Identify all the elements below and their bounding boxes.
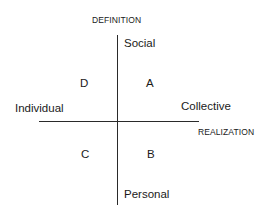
horizontal-axis-line [39, 121, 199, 122]
quadrant-bottom-left-label: C [81, 149, 89, 161]
vertical-axis-line [117, 35, 118, 205]
right-pole-label: Collective [181, 101, 231, 113]
left-pole-label: Individual [15, 103, 64, 115]
bottom-pole-label: Personal [124, 189, 169, 201]
top-pole-label: Social [124, 38, 155, 50]
quadrant-diagram: DEFINITION Social Personal Individual Co… [0, 0, 268, 218]
horizontal-axis-title: REALIZATION [198, 128, 254, 137]
quadrant-top-right-label: A [146, 78, 154, 90]
quadrant-top-left-label: D [80, 78, 88, 90]
vertical-axis-title: DEFINITION [92, 16, 141, 25]
quadrant-bottom-right-label: B [147, 149, 155, 161]
